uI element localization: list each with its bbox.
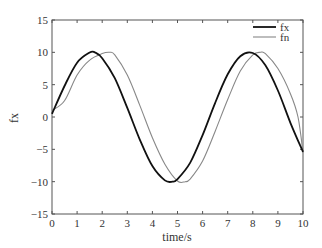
y-tick-label: −5 <box>36 143 48 155</box>
x-tick-label: 7 <box>225 217 231 229</box>
x-tick-label: 1 <box>74 217 80 229</box>
x-tick-label: 6 <box>200 217 206 229</box>
x-tick-label: 2 <box>99 217 105 229</box>
x-tick-label: 0 <box>49 217 55 229</box>
x-tick-label: 10 <box>298 217 310 229</box>
x-tick-label: 9 <box>275 217 281 229</box>
y-axis-label: fx <box>7 113 21 123</box>
x-axis-label: time/s <box>162 230 192 244</box>
y-tick-label: 15 <box>37 14 49 26</box>
x-tick-label: 3 <box>125 217 131 229</box>
x-tick-label: 5 <box>175 217 181 229</box>
legend-label-fn: fn <box>280 31 290 43</box>
y-tick-label: 5 <box>43 79 49 91</box>
x-tick-label: 4 <box>150 217 156 229</box>
line-chart: 012345678910−15−10−5051015 fxfn time/s f… <box>0 0 322 248</box>
y-tick-label: −10 <box>31 176 49 188</box>
x-tick-label: 8 <box>250 217 256 229</box>
y-tick-label: 0 <box>43 111 49 123</box>
y-tick-label: 10 <box>37 46 49 58</box>
y-tick-label: −15 <box>31 208 49 220</box>
